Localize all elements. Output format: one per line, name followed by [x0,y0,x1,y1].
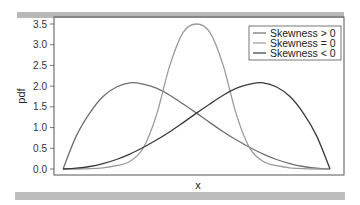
y-tick-label: 3.5 [33,19,47,30]
y-axis-title: pdf [15,87,27,103]
y-tick-label: 0.5 [33,143,47,154]
legend-label-negative: Skewness < 0 [270,47,336,59]
y-tick-label: 3.0 [33,39,47,50]
y-tick-label: 1.5 [33,101,47,112]
y-tick-label: 0.0 [33,164,47,175]
legend: Skewness > 0 Skewness = 0 Skewness < 0 [249,26,341,60]
y-tick-label: 1.0 [33,122,47,133]
curve-skewness-positive [63,83,330,169]
y-tick-label: 2.5 [33,60,47,71]
y-axis-ticks: 0.00.51.01.52.02.53.03.5 [33,19,54,175]
x-axis-title: x [195,179,201,191]
y-tick-label: 2.0 [33,81,47,92]
pdf-chart: 0.00.51.01.52.02.53.03.5 pdf x Skewness … [0,0,360,205]
